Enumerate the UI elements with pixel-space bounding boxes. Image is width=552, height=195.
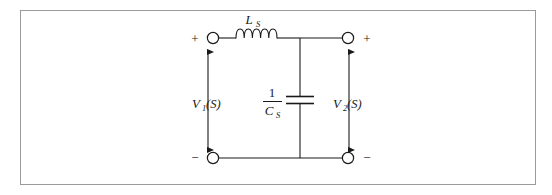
polarity-sign-top-left: + [191,31,198,46]
capacitor-label-denominator-main: C [265,103,274,118]
polarity-sign-bottom-left: − [191,150,198,165]
inductor-label-main: L [244,12,252,27]
input-voltage-label-arg: (S) [206,97,221,111]
capacitor-label-numerator: 1 [269,85,276,100]
polarity-sign-top-right: + [363,31,370,46]
terminal-top-right [342,32,353,43]
circuit-diagram-canvas: L S 1 C S V 1 (S) V 2 (S) + [0,0,552,195]
output-voltage-label-arg: (S) [347,97,362,111]
figure-root: L S 1 C S V 1 (S) V 2 (S) + [0,0,552,195]
terminal-bottom-left [207,152,218,163]
polarity-sign-bottom-right: − [363,150,370,165]
terminal-bottom-right [342,152,353,163]
terminal-top-left [207,32,218,43]
